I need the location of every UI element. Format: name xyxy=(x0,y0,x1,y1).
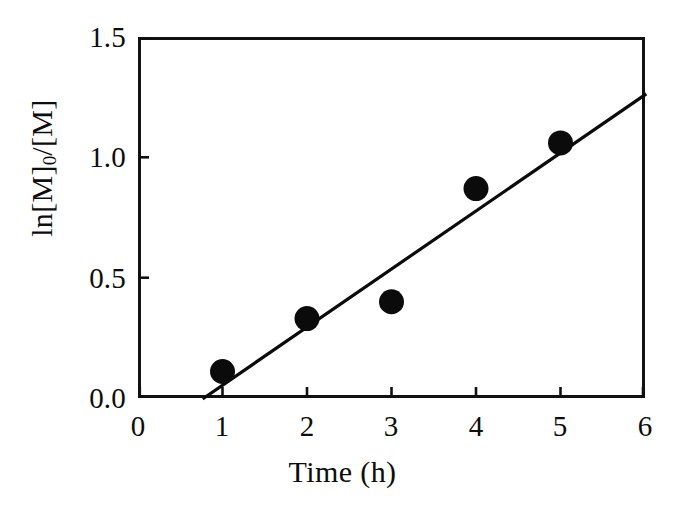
y-axis-title: ln[M]0/[M] xyxy=(25,18,61,318)
data-point-5 xyxy=(548,130,573,155)
data-point-1 xyxy=(210,359,235,384)
y-axis-tick-marks xyxy=(138,39,149,397)
fit-line xyxy=(204,95,645,398)
y-axis-title-tail: /[M] xyxy=(25,99,58,155)
x-tick-label-6: 6 xyxy=(638,412,653,441)
data-point-2 xyxy=(295,306,320,331)
data-point-4 xyxy=(464,176,489,201)
data-point-3 xyxy=(379,289,404,314)
data-markers xyxy=(210,130,573,384)
y-axis-title-main: ln[M] xyxy=(25,165,58,237)
plot-data-layer xyxy=(138,37,645,398)
x-tick-label-2: 2 xyxy=(300,412,315,441)
x-tick-label-4: 4 xyxy=(469,412,484,441)
kinetics-scatter-figure: 1.5 1.0 0.5 0.0 0 1 2 3 4 5 6 xyxy=(0,0,685,519)
y-tick-label-0.5: 0.5 xyxy=(58,264,126,293)
x-axis-title: Time (h) xyxy=(0,455,685,489)
x-tick-label-1: 1 xyxy=(215,412,230,441)
x-tick-label-3: 3 xyxy=(384,412,399,441)
x-tick-label-0: 0 xyxy=(131,412,146,441)
x-tick-label-5: 5 xyxy=(553,412,568,441)
y-axis-title-subscript: 0 xyxy=(39,156,60,166)
y-tick-label-0.0: 0.0 xyxy=(58,384,126,413)
y-tick-label-1.5: 1.5 xyxy=(58,23,126,52)
y-tick-label-1.0: 1.0 xyxy=(58,143,126,172)
